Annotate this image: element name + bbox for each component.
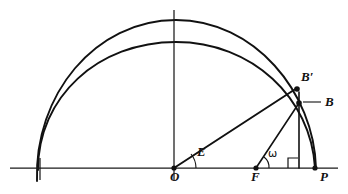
geometric-figure: O F P B B′ E ω [0,0,348,194]
label-b-prime: B′ [301,70,313,83]
point-p-dot [312,165,317,170]
label-f: F [251,170,260,183]
label-b: B [325,95,334,108]
label-p: P [320,170,328,183]
right-angle-mark [288,158,298,168]
point-b-dot [296,100,302,106]
point-bprime-dot [294,86,300,92]
label-o: O [170,170,179,183]
label-angle-omega: ω [268,148,277,159]
label-angle-e: E [197,145,206,158]
diagram-canvas [0,0,348,194]
